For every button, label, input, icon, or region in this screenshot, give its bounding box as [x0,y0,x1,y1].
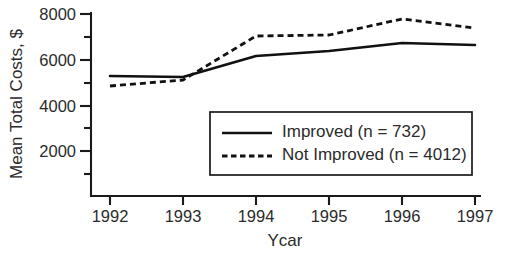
y-tick-label-4000: 4000 [39,97,76,115]
y-tick-label-6000: 6000 [39,51,76,69]
x-tick-label-1994: 1994 [238,207,275,225]
y-tick-label-2000: 2000 [39,142,76,160]
legend-label-improved: Improved (n = 732) [282,122,426,141]
x-axis-title: Ycar [268,231,303,250]
line-chart: 8000 6000 4000 2000 1992 1993 1994 1995 … [0,0,505,254]
legend-box [210,112,472,175]
legend-label-not-improved: Not Improved (n = 4012) [282,145,467,164]
series-improved-line [110,43,475,77]
chart-figure: 8000 6000 4000 2000 1992 1993 1994 1995 … [0,0,505,254]
y-axis-title: Mean Total Costs, $ [7,28,26,178]
y-tick-label-8000: 8000 [39,5,76,23]
x-tick-label-1996: 1996 [384,207,421,225]
x-tick-label-1995: 1995 [311,207,348,225]
x-tick-label-1997: 1997 [457,207,494,225]
x-tick-label-1992: 1992 [92,207,129,225]
x-tick-label-1993: 1993 [165,207,202,225]
legend: Improved (n = 732) Not Improved (n = 401… [210,112,472,175]
